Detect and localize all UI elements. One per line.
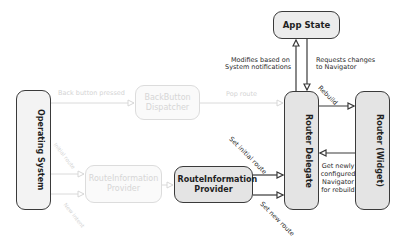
label-get-newly-line3: Navigator <box>320 178 356 186</box>
node-router-delegate: Router Delegate <box>284 91 319 210</box>
node-routeinfo-provider-label: RouteInformation Provider <box>178 175 250 195</box>
label-back-button-pressed: Back button pressed <box>58 89 125 97</box>
node-app-state-label: App State <box>283 20 330 30</box>
label-get-newly-line1: Get newly <box>320 162 356 170</box>
node-routeinfo-provider-faded-label: RouteInformation Provider <box>89 174 159 194</box>
node-operating-system: Operating System <box>16 90 51 210</box>
label-modifies-line2: System notifications <box>225 63 291 71</box>
node-backbutton-dispatcher-label: BackButton Dispatcher <box>143 93 193 113</box>
label-pop-route: Pop route <box>226 90 257 98</box>
node-operating-system-label: Operating System <box>23 109 45 190</box>
label-requests-line2: to Navigator <box>316 63 356 71</box>
node-backbutton-dispatcher: BackButton Dispatcher <box>135 85 200 120</box>
node-router-delegate-label: Router Delegate <box>291 114 313 188</box>
node-routeinfo-provider-faded: RouteInformation Provider <box>85 165 162 203</box>
node-routeinfo-provider: RouteInformation Provider <box>174 166 253 203</box>
label-get-newly-line2: configured <box>320 170 356 178</box>
label-get-newly-line4: for rebuild <box>320 186 356 194</box>
node-router-widget-label: Router (Widget) <box>362 114 384 187</box>
node-app-state: App State <box>273 11 340 39</box>
node-router-widget: Router (Widget) <box>355 91 390 210</box>
label-get-newly-configured: Get newly configured Navigator for rebui… <box>320 162 356 194</box>
connector-lines <box>0 0 407 246</box>
